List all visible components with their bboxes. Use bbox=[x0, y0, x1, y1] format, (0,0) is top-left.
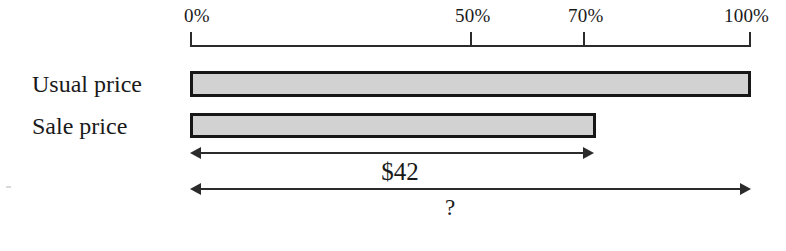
arrow-shaft bbox=[197, 188, 744, 190]
bar-usual-price bbox=[190, 71, 751, 97]
axis-tick-0 bbox=[190, 32, 192, 47]
row-label-usual-price: Usual price bbox=[32, 71, 182, 97]
bar-sale-price bbox=[190, 113, 596, 138]
arrow-shaft bbox=[197, 152, 587, 154]
axis-tick-70 bbox=[583, 32, 585, 47]
axis-tick-50 bbox=[470, 32, 472, 47]
arrow-head-right-icon bbox=[583, 147, 594, 159]
axis-tick-100 bbox=[749, 32, 751, 47]
axis-tick-label-70: 70% bbox=[568, 6, 603, 26]
axis-tick-label-100: 100% bbox=[724, 6, 769, 26]
percentage-bar-model-diagram: 0% 50% 70% 100% Usual price Sale price $… bbox=[0, 0, 786, 251]
axis-tick-label-50: 50% bbox=[455, 6, 490, 26]
annotation-unknown-total: ? bbox=[380, 195, 520, 220]
arrow-head-right-icon bbox=[740, 183, 751, 195]
row-label-sale-price: Sale price bbox=[32, 113, 182, 139]
annotation-sale-amount: $42 bbox=[330, 158, 470, 185]
axis-tick-label-0: 0% bbox=[184, 6, 210, 26]
scan-speck bbox=[6, 186, 11, 188]
